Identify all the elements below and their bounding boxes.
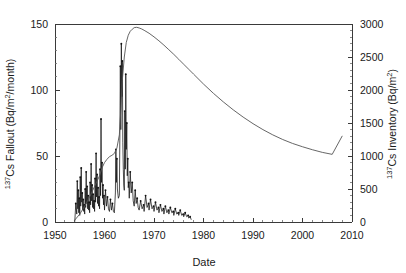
data-point-marker: [101, 162, 103, 164]
data-point-marker: [98, 196, 100, 198]
data-point-marker: [77, 189, 79, 191]
data-point-marker: [182, 213, 184, 215]
data-point-marker: [99, 168, 101, 170]
data-point-marker: [177, 212, 179, 214]
data-point-marker: [187, 214, 189, 216]
x-tick-label: 1970: [142, 229, 166, 241]
data-point-marker: [174, 208, 176, 210]
data-point-marker: [136, 197, 138, 199]
data-point-marker: [134, 189, 136, 191]
y-right-tick-label: 2500: [360, 51, 384, 63]
data-point-marker: [105, 189, 107, 191]
figure-container: 1950196019701980199020002010 050100150 0…: [0, 0, 406, 273]
data-point-marker: [189, 216, 191, 218]
data-point-marker: [103, 195, 105, 197]
data-point-marker: [127, 158, 129, 160]
y-axis-right-title: 137Cs Inventory (Bq/m2): [385, 69, 399, 179]
y-right-tick-label: 3000: [360, 18, 384, 30]
y-axis-left-title: 137Cs Fallout (Bq/m2/month): [3, 59, 17, 189]
data-point-marker: [79, 176, 81, 178]
data-point-marker: [153, 205, 155, 207]
x-tick-label: 1950: [43, 229, 67, 241]
data-point-marker: [109, 199, 111, 201]
y-right-tick-label: 0: [360, 216, 366, 228]
x-tick-label: 1980: [192, 229, 216, 241]
cesium-fallout-inventory-chart: 1950196019701980199020002010 050100150 0…: [0, 0, 406, 273]
y-left-tick-label: 50: [36, 150, 48, 162]
data-point-marker: [87, 195, 89, 197]
x-tick-label: 1960: [93, 229, 117, 241]
data-point-marker: [145, 195, 147, 197]
data-point-marker: [75, 203, 77, 205]
data-point-marker: [184, 212, 186, 214]
y-right-tick-label: 1500: [360, 117, 384, 129]
data-point-marker: [158, 207, 160, 209]
data-point-marker: [128, 181, 130, 183]
data-point-marker: [84, 188, 86, 190]
x-tick-label: 2010: [340, 229, 364, 241]
data-point-marker: [120, 43, 122, 45]
data-point-marker: [97, 187, 99, 189]
data-point-marker: [140, 200, 142, 202]
data-point-marker: [100, 118, 102, 120]
y-right-tick-label: 500: [360, 183, 378, 195]
data-point-marker: [159, 204, 161, 206]
y-left-tick-label: 0: [42, 216, 48, 228]
data-point-marker: [80, 167, 82, 169]
data-point-marker: [88, 201, 90, 203]
data-point-marker: [148, 203, 150, 205]
data-point-marker: [164, 205, 166, 207]
data-point-marker: [90, 163, 92, 165]
data-point-marker: [116, 158, 118, 160]
data-point-marker: [155, 201, 157, 203]
data-point-marker: [131, 181, 133, 183]
y-left-tick-label: 150: [30, 18, 48, 30]
data-point-marker: [111, 203, 113, 205]
data-point-marker: [85, 171, 87, 173]
data-point-marker: [124, 110, 126, 112]
data-point-marker: [129, 171, 131, 173]
data-point-marker: [126, 122, 128, 124]
data-point-marker: [121, 60, 123, 62]
x-axis-title: Date: [192, 256, 215, 268]
data-point-marker: [78, 197, 80, 199]
data-point-marker: [86, 185, 88, 187]
data-point-marker: [82, 199, 84, 201]
data-point-marker: [93, 200, 95, 202]
data-point-marker: [91, 184, 93, 186]
data-point-marker: [179, 209, 181, 211]
data-point-marker: [172, 210, 174, 212]
data-point-marker: [150, 199, 152, 201]
y-right-tick-label: 1000: [360, 150, 384, 162]
data-point-marker: [162, 208, 164, 210]
data-point-marker: [94, 177, 96, 179]
data-point-marker: [76, 180, 78, 182]
data-point-marker: [95, 152, 97, 154]
data-point-marker: [125, 73, 127, 75]
data-point-marker: [89, 181, 91, 183]
y-left-tick-label: 100: [30, 84, 48, 96]
data-point-marker: [92, 193, 94, 195]
data-point-marker: [169, 207, 171, 209]
x-tick-label: 2000: [291, 229, 315, 241]
data-point-marker: [81, 192, 83, 194]
data-point-marker: [167, 209, 169, 211]
data-point-marker: [119, 65, 121, 67]
x-tick-label: 1990: [241, 229, 265, 241]
data-point-marker: [107, 196, 109, 198]
y-right-tick-label: 2000: [360, 84, 384, 96]
data-point-marker: [102, 184, 104, 186]
data-point-marker: [96, 174, 98, 176]
data-point-marker: [143, 204, 145, 206]
